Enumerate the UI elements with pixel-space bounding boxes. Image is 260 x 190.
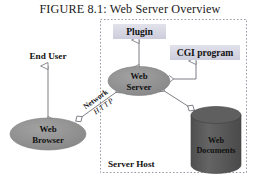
web-server-label-line2: Server <box>127 82 152 92</box>
web-documents-label-line1: Web <box>208 136 224 145</box>
node-web-server[interactable]: Web Server <box>108 67 170 96</box>
connector-web-server-to-cgi-program <box>166 61 196 79</box>
web-server-overview-diagram: Plugin CGI program Web Server Web Browse… <box>0 0 260 190</box>
figure-container: FIGURE 8.1: Web Server Overview <box>0 0 260 190</box>
network-http-label-group: Network HTTP <box>81 87 116 120</box>
end-user-label: End User <box>29 51 66 61</box>
server-host-label: Server Host <box>108 159 155 169</box>
connector-web-server-to-web-documents <box>158 87 194 110</box>
cgi-program-label: CGI program <box>177 47 234 58</box>
node-web-documents[interactable]: Web Documents <box>191 107 241 174</box>
web-browser-label-line1: Web <box>39 124 56 134</box>
web-documents-label-line2: Documents <box>196 146 235 155</box>
node-web-browser[interactable]: Web Browser <box>10 118 86 150</box>
web-browser-label-line2: Browser <box>32 135 64 145</box>
plugin-label: Plugin <box>126 26 153 37</box>
node-cgi-program[interactable]: CGI program <box>170 45 240 60</box>
node-plugin[interactable]: Plugin <box>113 24 166 39</box>
web-server-label-line1: Web <box>130 71 147 81</box>
